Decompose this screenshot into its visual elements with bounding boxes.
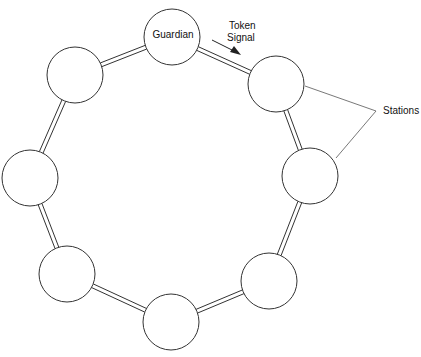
- ring-link: [38, 205, 55, 249]
- station-6-node: [2, 150, 58, 206]
- ring-link: [39, 100, 62, 152]
- ring-link: [93, 284, 146, 309]
- ring-link: [100, 45, 145, 63]
- ring-link: [281, 203, 302, 256]
- station-1-node: [248, 56, 304, 112]
- ring-link: [277, 201, 298, 254]
- ring-link: [284, 111, 299, 150]
- station-2-node: [282, 148, 338, 204]
- station-5-node: [39, 246, 95, 302]
- token-label: Token: [229, 20, 256, 32]
- ring-link: [92, 288, 145, 313]
- station-4-node: [143, 294, 199, 350]
- guardian-label: Guardian: [149, 29, 197, 41]
- ring-link: [288, 110, 303, 149]
- ring-nodes: [2, 9, 338, 350]
- ring-link: [42, 203, 59, 247]
- station-3-node: [241, 253, 297, 309]
- ring-link: [43, 101, 66, 153]
- ring-link: [198, 47, 251, 71]
- signal-label: Signal: [227, 32, 255, 44]
- stations-label: Stations: [383, 105, 419, 117]
- ring-diagram: [0, 0, 421, 357]
- station-7-node: [47, 47, 103, 103]
- ring-link: [102, 49, 147, 67]
- ring-link: [197, 50, 250, 74]
- ring-link: [198, 294, 244, 313]
- stations-callout-lines: [305, 86, 376, 158]
- ring-link: [196, 290, 242, 309]
